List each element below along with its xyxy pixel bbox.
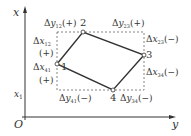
vertical-axis-label: x — [13, 6, 20, 19]
dy34-label: Δy34(−) — [120, 93, 153, 104]
dx34-label: Δx34(−) — [146, 67, 179, 78]
x1-tick-label: x1 — [14, 89, 23, 100]
dx41-sign: (+) — [39, 75, 54, 85]
horizontal-axis-label: y — [171, 118, 179, 131]
dx23-label: Δx23(−) — [146, 34, 179, 45]
vertex-2-marker — [81, 30, 85, 34]
dx41-label: Δx41 — [33, 62, 51, 73]
origin-label: O — [14, 118, 23, 131]
dx12-label: Δx12 — [33, 36, 51, 47]
vertex-2-label: 2 — [80, 17, 86, 28]
dx12-sign: (+) — [39, 48, 54, 58]
vertex-3-label: 3 — [146, 49, 152, 60]
dy41-label: Δy41(−) — [59, 93, 92, 104]
vertex-4-label: 4 — [110, 92, 116, 103]
vertex-1-marker — [55, 62, 59, 66]
vertical-axis-arrow-icon — [23, 6, 27, 13]
vertex-1-label: 1 — [61, 61, 67, 72]
dashed-box — [57, 32, 144, 90]
dy23-label: Δy23(+) — [112, 18, 145, 29]
dy12-label: Δy12(+) — [44, 18, 77, 29]
traverse-polygon — [57, 32, 144, 90]
diagram-svg: x y O x1 1 2 3 4 Δy12(+) Δy23(+) Δx12 (+… — [0, 0, 191, 136]
traverse-diagram: x y O x1 1 2 3 4 Δy12(+) Δy23(+) Δx12 (+… — [0, 0, 191, 136]
